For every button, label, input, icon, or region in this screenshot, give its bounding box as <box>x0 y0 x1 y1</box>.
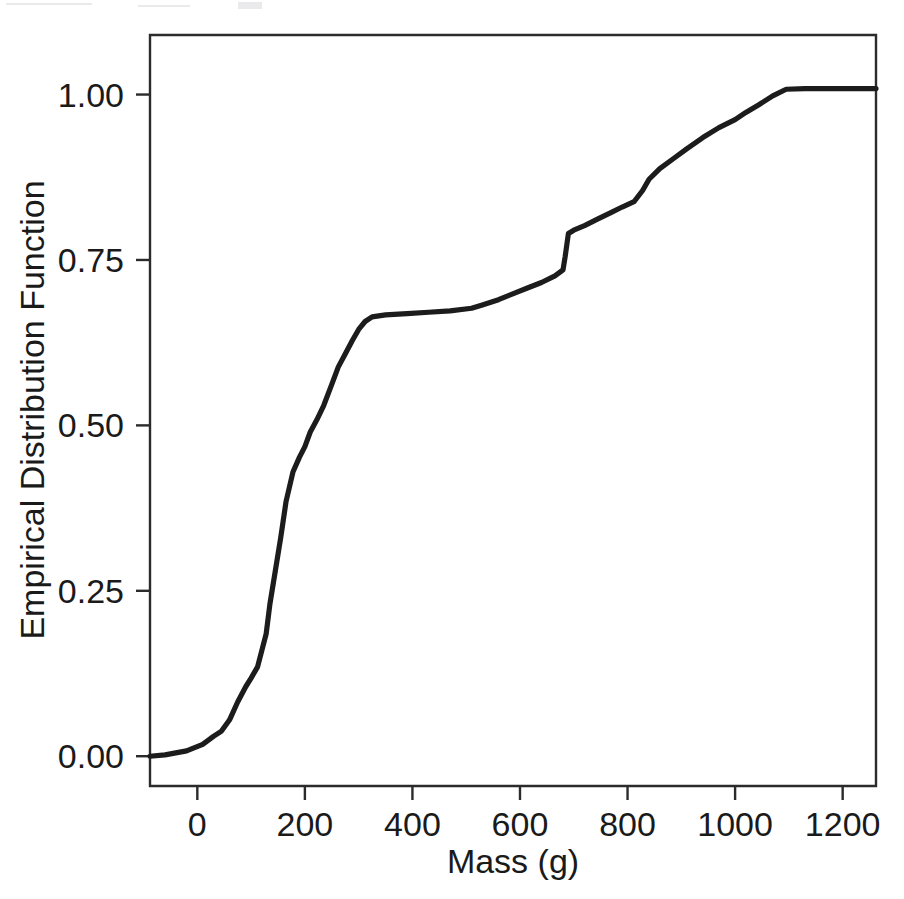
x-tick-label: 800 <box>599 805 656 843</box>
x-tick-label: 600 <box>492 805 549 843</box>
plot-frame <box>150 35 876 786</box>
x-axis-tick-labels: 020040060080010001200 <box>188 805 881 843</box>
y-tick-label: 0.25 <box>58 572 124 610</box>
x-tick-label: 0 <box>188 805 207 843</box>
x-tick-label: 400 <box>384 805 441 843</box>
y-tick-label: 0.75 <box>58 241 124 279</box>
plot-canvas: 020040060080010001200 0.000.250.500.751.… <box>0 0 904 899</box>
y-axis-tick-labels: 0.000.250.500.751.00 <box>58 76 124 776</box>
ecdf-figure: 020040060080010001200 0.000.250.500.751.… <box>0 0 904 899</box>
y-tick-label: 1.00 <box>58 76 124 114</box>
y-tick-label: 0.50 <box>58 406 124 444</box>
x-tick-label: 1000 <box>697 805 773 843</box>
y-tick-label: 0.00 <box>58 737 124 775</box>
ecdf-curve-line <box>150 89 876 757</box>
x-axis-ticks <box>197 786 842 800</box>
x-tick-label: 200 <box>277 805 334 843</box>
y-axis-ticks <box>136 95 150 757</box>
x-tick-label: 1200 <box>805 805 881 843</box>
x-axis-title: Mass (g) <box>447 842 579 880</box>
y-axis-title: Empirical Distribution Function <box>13 180 51 639</box>
